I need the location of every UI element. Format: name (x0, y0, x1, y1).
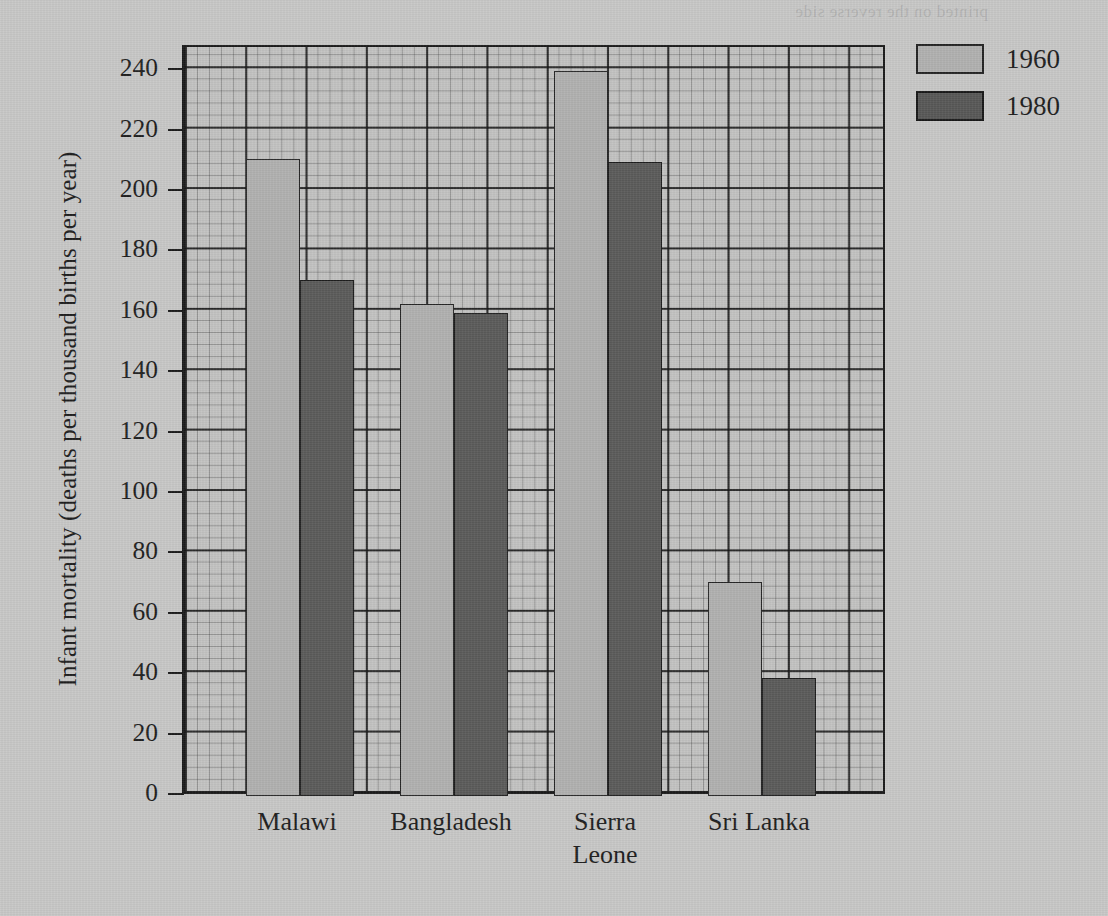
y-axis-tick-label: 240 (48, 55, 158, 81)
legend-swatch-1960 (916, 44, 984, 74)
y-axis-tick-label: 0 (48, 780, 158, 806)
y-axis-tick-label: 220 (48, 116, 158, 142)
bar-chart-figure: printed on the reverse side Infant morta… (0, 0, 1108, 916)
y-axis-tick-label: 100 (48, 478, 158, 504)
y-axis-tick-label: 40 (48, 659, 158, 685)
bar-malawi-1980 (300, 280, 354, 796)
y-axis-tick-label: 60 (48, 599, 158, 625)
bar-sri-lanka-1960 (708, 582, 762, 796)
bar-bangladesh-1960 (400, 304, 454, 796)
legend-label-1960: 1960 (1006, 46, 1060, 73)
y-axis-tick-label: 200 (48, 176, 158, 202)
bar-sierra-leone-1960 (554, 71, 608, 796)
legend-item-1960: 1960 (916, 44, 1060, 74)
y-axis-tick-label: 80 (48, 538, 158, 564)
legend-item-1980: 1980 (916, 91, 1060, 121)
bar-sierra-leone-1980 (608, 162, 662, 796)
plot-area (182, 45, 885, 794)
bar-sri-lanka-1980 (762, 678, 816, 796)
legend-label-1980: 1980 (1006, 93, 1060, 120)
bar-malawi-1960 (246, 159, 300, 796)
y-axis-tick-label: 140 (48, 357, 158, 383)
y-axis-tick-label: 160 (48, 297, 158, 323)
y-axis-tick-label: 20 (48, 720, 158, 746)
bar-bangladesh-1980 (454, 313, 508, 796)
x-axis-category-label: Sri Lanka (649, 806, 869, 839)
y-axis-tick-label: 180 (48, 236, 158, 262)
legend-swatch-1980 (916, 91, 984, 121)
legend: 19601980 (916, 44, 1060, 138)
y-axis-tick-label: 120 (48, 418, 158, 444)
page-bleed-through-text: printed on the reverse side (795, 2, 988, 22)
